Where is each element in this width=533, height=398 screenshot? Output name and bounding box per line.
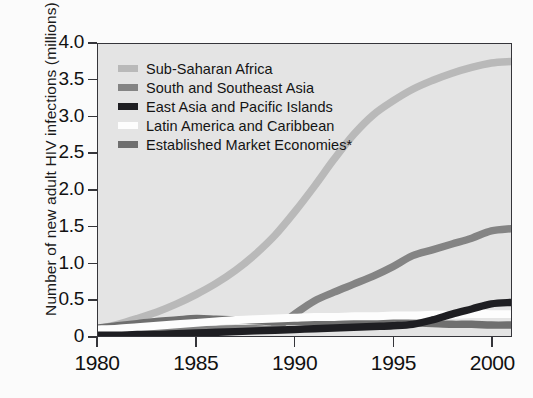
y-tick-mark	[88, 263, 97, 265]
legend-swatch-icon	[118, 84, 138, 91]
legend-item[interactable]: Latin America and Caribbean	[118, 116, 352, 135]
y-tick-mark	[88, 116, 97, 118]
legend-swatch-icon	[118, 103, 138, 110]
legend-item[interactable]: South and Southeast Asia	[118, 78, 352, 97]
x-tick-mark	[195, 337, 197, 347]
y-tick-mark	[88, 226, 97, 228]
legend-swatch-icon	[118, 122, 138, 129]
y-tick-label: 1.5	[58, 215, 84, 237]
legend-item[interactable]: Sub-Saharan Africa	[118, 59, 352, 78]
plot-area: Sub-Saharan AfricaSouth and Southeast As…	[97, 43, 512, 337]
legend-item-label: South and Southeast Asia	[146, 80, 314, 96]
y-tick-label: 1.0	[58, 252, 84, 274]
x-tick-mark	[294, 337, 296, 347]
x-tick-label: 2000	[470, 351, 515, 375]
y-tick-label: 3.5	[58, 68, 84, 90]
x-tick-label: 1990	[272, 351, 317, 375]
y-tick-mark	[88, 79, 97, 81]
legend-item-label: Sub-Saharan Africa	[146, 61, 273, 77]
y-tick-mark	[88, 189, 97, 191]
legend-item-label: Established Market Economies*	[146, 137, 352, 153]
y-tick-mark	[88, 42, 97, 44]
x-tick-label: 1995	[371, 351, 416, 375]
y-tick-label: 3.0	[58, 105, 84, 127]
legend-item[interactable]: Established Market Economies*	[118, 135, 352, 154]
legend-item[interactable]: East Asia and Pacific Islands	[118, 97, 352, 116]
y-tick-label: 0.5	[58, 288, 84, 310]
x-tick-mark	[491, 337, 493, 347]
chart-figure: Number of new adult HIV infections (mill…	[0, 0, 533, 398]
legend-swatch-icon	[118, 65, 138, 72]
legend-swatch-icon	[118, 141, 138, 148]
legend-item-label: East Asia and Pacific Islands	[146, 99, 333, 115]
y-tick-mark	[88, 299, 97, 301]
y-tick-label: 0	[74, 325, 84, 347]
y-axis-title: Number of new adult HIV infections (mill…	[42, 0, 60, 334]
y-tick-label: 4.0	[58, 31, 84, 53]
y-tick-mark	[88, 152, 97, 154]
y-tick-label: 2.5	[58, 141, 84, 163]
chart-legend: Sub-Saharan AfricaSouth and Southeast As…	[118, 59, 352, 154]
x-tick-label: 1980	[74, 351, 119, 375]
x-tick-label: 1985	[173, 351, 218, 375]
x-tick-mark	[393, 337, 395, 347]
legend-item-label: Latin America and Caribbean	[146, 118, 334, 134]
x-tick-mark	[96, 337, 98, 347]
y-tick-label: 2.0	[58, 178, 84, 200]
